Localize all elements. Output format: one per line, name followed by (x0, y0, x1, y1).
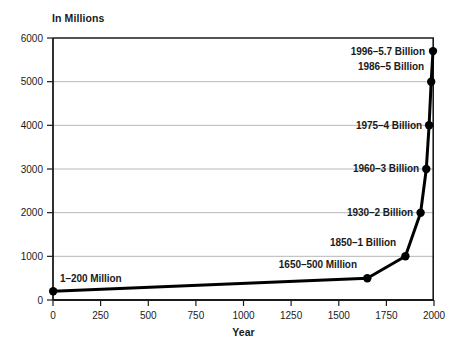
y-tick-label-2000: 2000 (21, 207, 44, 218)
y-tick-label-1000: 1000 (21, 251, 44, 262)
data-point-1996 (429, 47, 437, 55)
data-point-1975 (425, 121, 433, 129)
data-point-1930 (416, 209, 424, 217)
annotation-1986: 1986–5 Billion (358, 61, 424, 72)
chart-canvas: 6000 5000 4000 3000 2000 1000 0 0 250 50… (0, 0, 473, 340)
chart-title: In Millions (52, 12, 104, 24)
y-axis-tick-labels: 6000 5000 4000 3000 2000 1000 0 (21, 33, 44, 306)
y-tick-label-6000: 6000 (21, 33, 44, 44)
data-point-1960 (422, 165, 430, 173)
annotation-1975: 1975–4 Billion (356, 120, 422, 131)
data-point-1 (49, 287, 57, 295)
x-tick-label-1000: 1000 (232, 310, 255, 321)
y-tick-label-0: 0 (37, 295, 43, 306)
data-point-1850 (401, 252, 409, 260)
x-tick-label-500: 500 (140, 310, 157, 321)
x-axis-tick-labels: 0 250 500 750 1000 1250 1500 1750 2000 (50, 310, 445, 321)
annotation-1650: 1650–500 Million (279, 259, 357, 270)
annotation-1850: 1850–1 Billion (330, 237, 396, 248)
x-axis-title: Year (232, 326, 255, 338)
annotation-1930: 1930–2 Billion (347, 207, 413, 218)
data-point-1650 (363, 274, 371, 282)
y-tick-label-4000: 4000 (21, 120, 44, 131)
x-tick-label-750: 750 (188, 310, 205, 321)
x-tick-label-1500: 1500 (328, 310, 351, 321)
annotation-1996: 1996–5.7 Billion (351, 46, 425, 57)
y-tick-label-3000: 3000 (21, 164, 44, 175)
x-tick-label-2000: 2000 (423, 310, 446, 321)
x-tick-label-0: 0 (50, 310, 56, 321)
annotation-1960: 1960–3 Billion (353, 163, 419, 174)
x-tick-label-250: 250 (92, 310, 109, 321)
population-growth-chart: 6000 5000 4000 3000 2000 1000 0 0 250 50… (0, 0, 473, 340)
data-point-1986 (427, 78, 435, 86)
annotation-1: 1–200 Million (60, 273, 122, 284)
y-tick-label-5000: 5000 (21, 76, 44, 87)
x-tick-label-1750: 1750 (375, 310, 398, 321)
x-tick-label-1250: 1250 (280, 310, 303, 321)
